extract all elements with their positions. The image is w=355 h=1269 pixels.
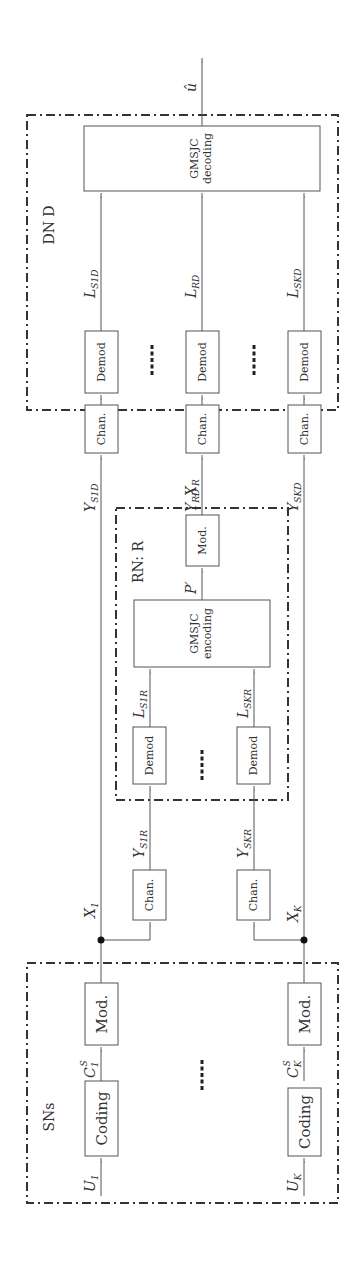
coding-block-1-label: Coding: [93, 1091, 111, 1146]
gmsjc-encoding-block: GMSJC encoding: [134, 600, 270, 667]
wire-xk-branch: [254, 922, 304, 940]
signal-y-s1r: YS1R: [131, 830, 149, 858]
chan-block-skr-label: Chan.: [247, 879, 260, 912]
chan-block-s1d: Chan.: [85, 405, 118, 453]
signal-l-s1r: LS1R: [131, 690, 149, 719]
junction-dot-xk: [301, 937, 308, 944]
wire-x1-branch: [101, 922, 150, 940]
signal-l-rd: LRD: [183, 275, 201, 299]
mod-block-r-label: Mod.: [196, 526, 209, 554]
mod-block-k-label: Mod.: [296, 995, 314, 1034]
signal-l-skd: LSKD: [285, 269, 303, 299]
demod-block-skr-label: Demod: [247, 736, 260, 775]
gmsjc-decoding-block: GMSJC decoding: [84, 126, 320, 191]
signal-y-skd: YSKD: [285, 483, 303, 512]
chan-block-s1d-label: Chan.: [95, 413, 108, 446]
junction-dot-x1: [98, 937, 105, 944]
signal-y-skr: YSKR: [235, 829, 253, 858]
signal-cks: CKS: [282, 1059, 303, 1078]
demod-block-s1d: Demod: [85, 331, 118, 393]
demod-block-s1r-label: Demod: [143, 736, 156, 775]
mod-block-r: Mod.: [186, 515, 219, 566]
rn-group-label: RN: R: [130, 541, 146, 583]
demod-block-skr: Demod: [237, 727, 270, 784]
chan-block-rd-label: Chan.: [196, 413, 209, 446]
chan-block-rd: Chan.: [186, 405, 219, 453]
demod-block-s1d-label: Demod: [95, 342, 108, 381]
chan-block-skr: Chan.: [237, 870, 270, 920]
signal-u-hat: û: [183, 83, 199, 92]
signal-p-prime: P′: [183, 581, 199, 595]
chan-block-skd: Chan.: [288, 405, 321, 453]
demod-block-rd-label: Demod: [196, 342, 209, 381]
gmsjc-encoding-line1: GMSJC: [188, 613, 201, 653]
signal-xk: XK: [285, 904, 303, 923]
demod-block-skd: Demod: [288, 331, 321, 393]
gmsjc-system-diagram: Coding Mod. Coding Mod. Chan. Chan. Demo…: [0, 0, 355, 1269]
mod-block-k: Mod.: [288, 983, 321, 1045]
dn-group-label: DN D: [41, 205, 57, 244]
gmsjc-encoding-line2: encoding: [201, 608, 214, 659]
coding-block-k-label: Coding: [296, 1095, 314, 1150]
mod-block-1: Mod.: [85, 983, 118, 1045]
signal-y-s1d: YS1D: [82, 484, 100, 512]
coding-block-1: Coding: [85, 1081, 118, 1156]
chan-block-s1r: Chan.: [133, 870, 166, 920]
signal-c1s: C1S: [79, 1060, 100, 1078]
gmsjc-decoding-line1: GMSJC: [188, 138, 201, 178]
signal-l-skr: LSKR: [235, 689, 253, 719]
signal-uk: UK: [285, 1172, 303, 1192]
gmsjc-decoding-line2: decoding: [201, 133, 214, 184]
mod-block-1-label: Mod.: [93, 995, 111, 1034]
chan-block-skd-label: Chan.: [298, 413, 311, 446]
signal-u1: U1: [82, 1174, 100, 1192]
demod-block-skd-label: Demod: [298, 342, 311, 381]
demod-block-rd: Demod: [186, 331, 219, 393]
signal-l-s1d: LS1D: [82, 270, 100, 299]
demod-block-s1r: Demod: [133, 727, 166, 784]
sns-group-label: SNs: [41, 1102, 57, 1131]
coding-block-k: Coding: [288, 1088, 321, 1156]
chan-block-s1r-label: Chan.: [143, 879, 156, 912]
signal-x1: X1: [82, 902, 100, 919]
